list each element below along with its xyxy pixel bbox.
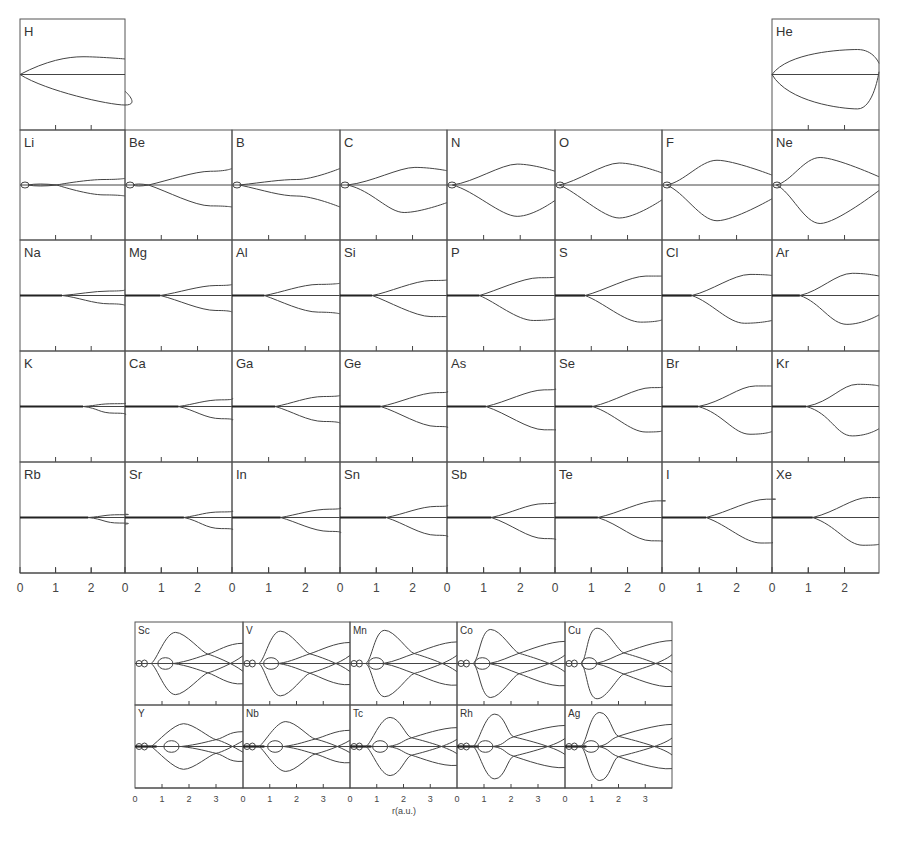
panel-se: Se	[555, 351, 663, 462]
lower-curve	[772, 72, 879, 109]
transition-metal-x-axis: 01230123012301230123	[132, 788, 672, 804]
panel-in: In	[232, 462, 341, 573]
tick-label: 1	[159, 794, 164, 804]
d-orbital-upper	[259, 631, 350, 671]
panel-al: Al	[232, 240, 340, 351]
panel-h: H	[20, 19, 132, 130]
element-label: Ca	[129, 356, 146, 371]
element-label: Sr	[129, 467, 143, 482]
lower-curve	[372, 296, 447, 317]
transition-metal-grid: ScVMnCoCuYNbTcRhAg	[135, 622, 672, 788]
upper-curve	[772, 50, 879, 75]
panel-he: He	[772, 19, 879, 130]
main-x-axis: 012012012012012012012012	[17, 567, 879, 595]
tick-label: 0	[337, 581, 344, 595]
tick-label: 3	[321, 794, 326, 804]
lower-curve	[666, 185, 772, 221]
tick-label: 0	[240, 794, 245, 804]
element-label: I	[666, 467, 670, 482]
element-label: Cl	[666, 245, 678, 260]
element-label: P	[451, 245, 460, 260]
lower-curve	[592, 407, 662, 433]
panel-p: P	[447, 240, 555, 351]
s-orbital-upper	[284, 730, 350, 746]
tick-label: 1	[265, 581, 272, 595]
tm-panel-mn: Mn	[350, 622, 457, 705]
tick-label: 2	[841, 581, 848, 595]
tick-label: 0	[122, 581, 129, 595]
tick-label: 2	[517, 581, 524, 595]
upper-curve	[20, 57, 125, 75]
tm-panel-tc: Tc	[350, 705, 457, 788]
upper-curve	[386, 505, 448, 517]
tm-panel-cu: Cu	[565, 622, 672, 705]
tick-label: 2	[624, 581, 631, 595]
tm-panel-sc: Sc	[135, 622, 243, 705]
lower-curve	[160, 296, 232, 313]
lower-curve	[264, 296, 340, 314]
upper-curve	[813, 498, 880, 518]
s-orbital-lower	[173, 664, 243, 684]
s-orbital-lower	[388, 747, 457, 766]
lower-curve	[386, 518, 448, 537]
upper-curve	[275, 395, 340, 406]
lower-curve	[88, 518, 128, 525]
tick-label: 2	[409, 581, 416, 595]
panel-ne: Ne	[772, 130, 879, 240]
lower-curve	[452, 185, 555, 216]
tick-label: 2	[294, 794, 299, 804]
s-orbital-lower	[493, 747, 565, 768]
element-label: N	[451, 135, 460, 150]
tick-label: 3	[643, 794, 648, 804]
tick-label: 1	[52, 581, 59, 595]
panel-ca: Ca	[125, 351, 233, 462]
lower-curve	[706, 518, 773, 544]
element-label: Ar	[776, 245, 790, 260]
lower-curve	[83, 407, 126, 415]
upper-curve	[491, 503, 556, 518]
tick-label: 0	[444, 581, 451, 595]
element-label: Ag	[568, 708, 580, 719]
panel-f: F	[662, 130, 772, 240]
element-label: In	[236, 467, 247, 482]
tm-panel-ag: Ag	[565, 705, 672, 788]
tick-label: 1	[373, 581, 380, 595]
d-orbital-lower	[581, 655, 672, 699]
element-label: Ne	[776, 135, 793, 150]
panel-sb: Sb	[447, 462, 556, 573]
panel-i: I	[662, 462, 776, 573]
tick-label: 3	[535, 794, 540, 804]
element-label: Co	[460, 625, 473, 636]
s-orbital-lower	[181, 747, 243, 762]
lower-curve	[776, 185, 879, 224]
lower-curve	[598, 518, 663, 542]
panel-cl: Cl	[662, 240, 772, 351]
panel-be: Be	[125, 130, 232, 240]
element-label: Cu	[568, 625, 581, 636]
s-orbital-upper	[383, 642, 457, 664]
s-orbital-upper	[279, 642, 350, 663]
lower-curve	[813, 518, 879, 546]
element-label: Be	[129, 135, 145, 150]
tick-label: 1	[158, 581, 165, 595]
tick-label: 2	[302, 581, 309, 595]
element-label: Xe	[776, 467, 792, 482]
element-label: F	[666, 135, 674, 150]
panel-as: As	[447, 351, 556, 462]
tick-label: 1	[480, 581, 487, 595]
tick-label: 3	[213, 794, 218, 804]
s-orbital-upper	[489, 641, 565, 663]
tick-label: 2	[401, 794, 406, 804]
lower-curve	[347, 185, 447, 213]
tick-label: 2	[508, 794, 513, 804]
tm-panel-nb: Nb	[243, 705, 350, 788]
panel-sn: Sn	[340, 462, 448, 573]
panel-n: N	[447, 130, 555, 240]
upper-curve	[179, 398, 233, 406]
d-orbital-lower	[151, 656, 243, 695]
upper-curve	[806, 384, 879, 406]
upper-curve	[692, 274, 772, 295]
upper-curve	[585, 276, 662, 295]
upper-curve	[347, 167, 447, 185]
tick-label: 1	[589, 794, 594, 804]
